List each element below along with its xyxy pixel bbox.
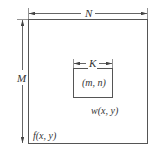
n-dimension-label: N: [84, 7, 93, 19]
kernel-function-label: w(x, y): [91, 105, 118, 117]
m-dimension-label: M: [17, 71, 26, 85]
diagram-canvas: N M K (m, n) w(x, y) f(x, y): [0, 0, 161, 153]
k-dimension-label: K: [88, 57, 97, 69]
center-point-label: (m, n): [82, 77, 106, 89]
image-function-label: f(x, y): [33, 130, 56, 142]
